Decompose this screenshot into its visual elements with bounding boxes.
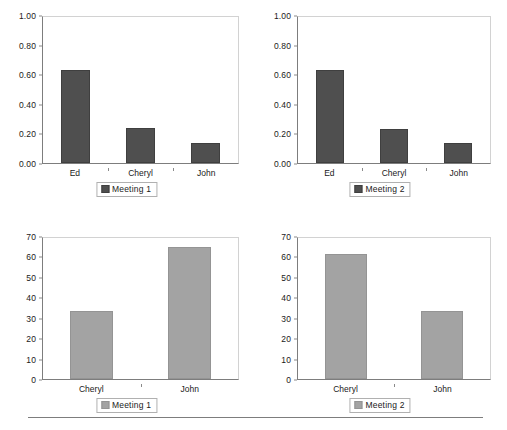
bar[interactable] xyxy=(191,143,220,163)
y-tick-label: 0.00 xyxy=(19,159,36,169)
y-tick-label: 30 xyxy=(281,314,291,324)
y-tick-label: 70 xyxy=(281,232,291,242)
x-tick-mark xyxy=(141,384,142,387)
y-tick-label: 60 xyxy=(281,252,291,262)
x-tick-label: Cheryl xyxy=(362,168,427,178)
y-tick-label: 40 xyxy=(281,293,291,303)
y-tick-label: 0.60 xyxy=(274,70,291,80)
legend-label: Meeting 1 xyxy=(112,184,151,194)
x-axis-top-left: EdCherylJohn xyxy=(42,168,239,178)
y-axis-bottom-left: 010203040506070 xyxy=(8,237,42,380)
y-tick-label: 10 xyxy=(281,355,291,365)
plot-area-top-right xyxy=(297,16,491,164)
y-tick-label: 10 xyxy=(26,355,36,365)
bar[interactable] xyxy=(61,70,90,163)
x-tick-label: Ed xyxy=(297,168,362,178)
bar-slot xyxy=(426,17,490,163)
y-tick-label: 0.60 xyxy=(19,70,36,80)
chart-panel-bottom-right: 010203040506070 CherylJohn Meeting 2 xyxy=(253,215,507,415)
y-tick-label: 50 xyxy=(26,273,36,283)
legend-label: Meeting 2 xyxy=(365,184,404,194)
y-axis-top-left: 0.000.200.400.600.801.00 xyxy=(8,16,42,164)
y-tick-label: 0.80 xyxy=(19,41,36,51)
legend-top-left: Meeting 1 xyxy=(96,182,157,197)
legend-swatch-icon xyxy=(354,401,362,409)
bar-chart-bottom-right: 010203040506070 CherylJohn Meeting 2 xyxy=(253,215,507,415)
x-tick-label: John xyxy=(426,168,491,178)
legend-swatch-icon xyxy=(354,185,362,193)
x-tick-mark xyxy=(108,168,109,171)
y-tick-label: 1.00 xyxy=(19,11,36,21)
legend-bottom-left: Meeting 1 xyxy=(96,398,157,413)
legend-bottom-right: Meeting 2 xyxy=(349,398,410,413)
chart-grid: 0.000.200.400.600.801.00 EdCherylJohn Me… xyxy=(0,0,507,415)
x-tick-label: John xyxy=(141,384,240,394)
bar[interactable] xyxy=(325,254,367,379)
bar[interactable] xyxy=(380,129,408,163)
x-tick-mark xyxy=(362,168,363,171)
y-axis-top-right: 0.000.200.400.600.801.00 xyxy=(263,16,297,164)
bar-chart-top-right: 0.000.200.400.600.801.00 EdCherylJohn Me… xyxy=(253,0,507,215)
legend-label: Meeting 2 xyxy=(365,400,404,410)
x-tick-label: Cheryl xyxy=(42,384,141,394)
bar-series-bottom-left xyxy=(43,238,238,379)
bar-slot xyxy=(394,238,490,379)
bar[interactable] xyxy=(444,143,472,163)
chart-panel-top-right: 0.000.200.400.600.801.00 EdCherylJohn Me… xyxy=(253,0,507,215)
bar-slot xyxy=(43,238,141,379)
y-axis-bottom-right: 010203040506070 xyxy=(263,237,297,380)
y-tick-label: 0.20 xyxy=(274,129,291,139)
plot-area-top-left xyxy=(42,16,239,164)
bar-series-bottom-right xyxy=(298,238,490,379)
x-tick-mark xyxy=(173,168,174,171)
legend-top-right: Meeting 2 xyxy=(349,182,410,197)
y-tick-label: 40 xyxy=(26,293,36,303)
y-tick-label: 30 xyxy=(26,314,36,324)
figure-sheet: 0.000.200.400.600.801.00 EdCherylJohn Me… xyxy=(0,0,507,430)
bar[interactable] xyxy=(421,311,463,379)
x-axis-bottom-right: CherylJohn xyxy=(297,384,491,394)
x-axis-bottom-left: CherylJohn xyxy=(42,384,239,394)
y-tick-label: 50 xyxy=(281,273,291,283)
y-tick-label: 60 xyxy=(26,252,36,262)
bar-slot xyxy=(108,17,173,163)
y-tick-label: 20 xyxy=(281,334,291,344)
y-tick-label: 1.00 xyxy=(274,11,291,21)
bar-chart-top-left: 0.000.200.400.600.801.00 EdCherylJohn Me… xyxy=(0,0,253,215)
bar-series-top-right xyxy=(298,17,490,163)
bar-slot xyxy=(298,238,394,379)
y-tick-label: 0.80 xyxy=(274,41,291,51)
chart-panel-bottom-left: 010203040506070 CherylJohn Meeting 1 xyxy=(0,215,253,415)
bar-slot xyxy=(362,17,426,163)
plot-area-bottom-right xyxy=(297,237,491,380)
y-tick-label: 0.40 xyxy=(19,100,36,110)
legend-swatch-icon xyxy=(101,401,109,409)
bar-chart-bottom-left: 010203040506070 CherylJohn Meeting 1 xyxy=(0,215,253,415)
y-tick-label: 0.00 xyxy=(274,159,291,169)
x-tick-mark xyxy=(394,384,395,387)
y-tick-label: 0.20 xyxy=(19,129,36,139)
bar-slot xyxy=(141,238,239,379)
x-tick-label: John xyxy=(173,168,239,178)
y-tick-label: 0 xyxy=(286,375,291,385)
x-tick-mark xyxy=(426,168,427,171)
x-tick-label: John xyxy=(394,384,491,394)
footer-rule xyxy=(28,417,483,418)
x-tick-label: Cheryl xyxy=(108,168,174,178)
bar[interactable] xyxy=(316,70,344,163)
x-axis-top-right: EdCherylJohn xyxy=(297,168,491,178)
bar-slot xyxy=(173,17,238,163)
legend-label: Meeting 1 xyxy=(112,400,151,410)
y-tick-label: 20 xyxy=(26,334,36,344)
bar[interactable] xyxy=(126,128,155,163)
bar-slot xyxy=(298,17,362,163)
plot-area-bottom-left xyxy=(42,237,239,380)
x-tick-label: Ed xyxy=(42,168,108,178)
y-tick-label: 0.40 xyxy=(274,100,291,110)
legend-swatch-icon xyxy=(101,185,109,193)
bar[interactable] xyxy=(168,247,211,379)
y-tick-label: 70 xyxy=(26,232,36,242)
x-tick-label: Cheryl xyxy=(297,384,394,394)
bar[interactable] xyxy=(70,311,113,379)
chart-panel-top-left: 0.000.200.400.600.801.00 EdCherylJohn Me… xyxy=(0,0,253,215)
